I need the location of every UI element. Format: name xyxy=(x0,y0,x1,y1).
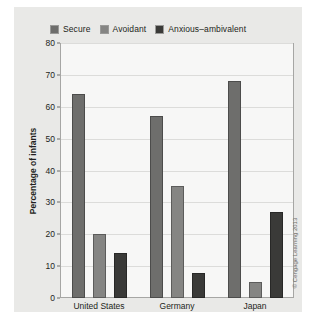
x-axis-label: Germany xyxy=(160,301,195,311)
legend-label-secure: Secure xyxy=(63,24,91,34)
legend-swatch-secure xyxy=(50,25,59,34)
legend-item-anxious-ambivalent: Anxious–ambivalent xyxy=(155,24,246,34)
y-tick-label: 20 xyxy=(46,229,55,239)
bars-layer xyxy=(60,43,294,298)
bar xyxy=(192,273,205,299)
bar-group xyxy=(60,43,138,298)
x-axis-label: United States xyxy=(73,301,124,311)
bar xyxy=(228,81,241,298)
y-tick-label: 70 xyxy=(46,70,55,80)
copyright-text: © Cengage Learning 2013 xyxy=(292,218,298,288)
bar xyxy=(249,282,262,298)
legend-item-secure: Secure xyxy=(50,24,91,34)
y-tick-label: 50 xyxy=(46,134,55,144)
y-tick-label: 10 xyxy=(46,261,55,271)
bar xyxy=(150,116,163,298)
y-axis-title-text: Percentage of infants xyxy=(28,127,38,213)
legend-label-avoidant: Avoidant xyxy=(113,24,147,34)
bar xyxy=(171,186,184,298)
bar xyxy=(114,253,127,298)
bar xyxy=(270,212,283,298)
chart-legend: Secure Avoidant Anxious–ambivalent xyxy=(50,21,298,37)
x-axis-label: Japan xyxy=(243,301,266,311)
copyright-credit: © Cengage Learning 2013 xyxy=(289,203,301,303)
legend-swatch-anxious-ambivalent xyxy=(155,25,164,34)
y-tick-label: 40 xyxy=(46,166,55,176)
legend-label-anxious-ambivalent: Anxious–ambivalent xyxy=(168,24,246,34)
legend-item-avoidant: Avoidant xyxy=(100,24,147,34)
y-axis-title: Percentage of infants xyxy=(26,43,40,298)
figure-panel: Secure Avoidant Anxious–ambivalent Perce… xyxy=(14,7,302,312)
bar-group xyxy=(138,43,216,298)
x-axis-labels: United StatesGermanyJapan xyxy=(60,301,294,315)
legend-swatch-avoidant xyxy=(100,25,109,34)
bar-group xyxy=(216,43,294,298)
y-tick-label: 0 xyxy=(50,293,55,303)
y-tick-label: 60 xyxy=(46,102,55,112)
y-tick-label: 80 xyxy=(46,38,55,48)
bar xyxy=(93,234,106,298)
bar xyxy=(72,94,85,298)
y-tick-label: 30 xyxy=(46,197,55,207)
